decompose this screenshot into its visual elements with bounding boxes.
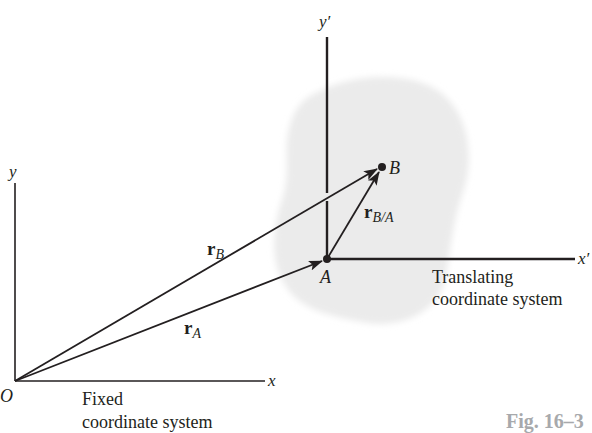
translating-x-axis-label: x′ [577, 249, 590, 268]
figure-label: Fig. 16–3 [506, 410, 584, 433]
translating-caption-line-1: Translating [432, 267, 513, 287]
vector-r-a [15, 261, 322, 381]
vector-r-a-label: rA [184, 317, 201, 341]
point-a-label: A [319, 267, 332, 287]
vector-r-b-label: rB [207, 238, 224, 262]
fixed-caption-line-2: coordinate system [82, 412, 212, 432]
translating-y-axis-label: y′ [317, 12, 331, 31]
vector-r-b-subscript: B [215, 247, 224, 262]
fixed-y-axis-label: y [7, 162, 17, 181]
relative-motion-diagram: y x O Fixed coordinate system y′ x′ Tran… [0, 0, 592, 433]
origin-o-label: O [0, 386, 13, 406]
vector-r-a-subscript: A [191, 326, 201, 341]
fixed-x-axis-label: x [267, 371, 276, 390]
point-a [323, 255, 331, 263]
translating-caption-line-2: coordinate system [432, 289, 562, 309]
point-b [378, 163, 386, 171]
vector-r-b-over-a-subscript: B/A [372, 210, 393, 225]
point-b-label: B [389, 158, 400, 178]
fixed-caption-line-1: Fixed [82, 389, 123, 409]
